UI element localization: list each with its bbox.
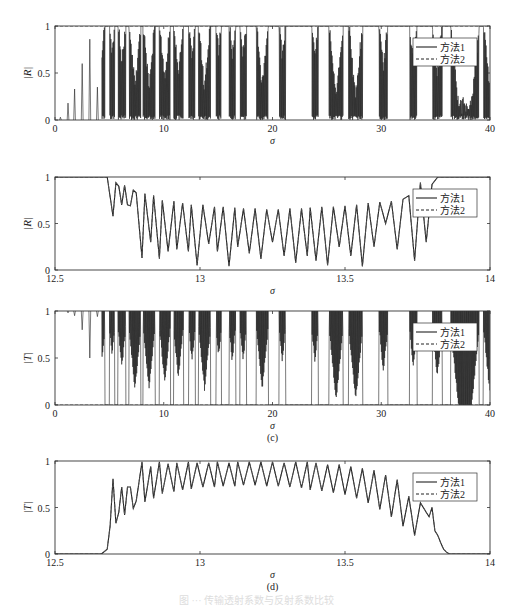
svg-text:|T|: |T| [21,501,33,513]
x-tick-label: 40 [485,408,495,419]
chart-b-svg: 12.51313.51400.51|R|σ(b)方法1方法2 [0,148,513,298]
x-axis-label: σ [270,569,276,580]
chart-c-svg: 01020304000.51|T|σ(c)方法1方法2 [0,298,513,446]
y-tick-label: 1 [45,172,50,183]
chart-panel-c: 01020304000.51|T|σ(c)方法1方法2 [0,298,513,446]
legend-label-method2: 方法2 [440,488,465,500]
y-axis-label: |T| [21,352,33,364]
svg-text:|R|: |R| [21,67,33,80]
legend: 方法1方法2 [413,473,477,501]
legend: 方法1方法2 [413,189,477,217]
panel-label: (c) [267,432,278,444]
legend-label-method2: 方法2 [440,338,465,350]
legend-label-method1: 方法1 [440,192,465,204]
x-tick-label: 13.5 [336,273,354,284]
panel-label: (d) [267,581,279,592]
x-axis-label: σ [270,420,276,431]
legend-label-method1: 方法1 [440,41,465,53]
chart-d-svg: 12.51313.51400.51|T|σ(d)方法1方法2 [0,446,513,592]
chart-panel-a: 01020304000.51|R|σ(a)方法1方法2 [0,0,513,148]
svg-text:|R|: |R| [21,217,33,230]
x-tick-label: 13 [195,273,205,284]
x-tick-label: 10 [159,408,169,419]
y-tick-label: 1 [45,306,50,317]
x-tick-label: 10 [159,123,169,134]
y-tick-label: 0 [45,549,50,560]
figure-caption: 图 ··· 传输透射系数与反射系数比较 [0,592,513,607]
x-tick-label: 14 [485,273,495,284]
x-axis-label: σ [270,135,276,146]
legend-label-method1: 方法1 [440,476,465,488]
x-tick-label: 0 [53,123,58,134]
x-tick-label: 13 [195,557,205,568]
legend-label-method2: 方法2 [440,204,465,216]
y-tick-label: 0.5 [38,68,51,79]
y-tick-label: 0 [45,115,50,126]
y-axis-label: |T| [21,501,33,513]
y-tick-label: 0.5 [38,219,51,230]
chart-a: 01020304000.51|R|σ(a)方法1方法2 [21,21,495,148]
y-axis-label: |R| [21,217,33,230]
x-tick-label: 20 [268,408,278,419]
y-tick-label: 0.5 [38,503,51,514]
chart-d: 12.51313.51400.51|T|σ(d)方法1方法2 [21,456,495,592]
svg-text:|T|: |T| [21,352,33,364]
x-tick-label: 13.5 [336,557,354,568]
x-tick-label: 30 [376,408,386,419]
y-tick-label: 1 [45,456,50,467]
legend-label-method1: 方法1 [440,326,465,338]
x-tick-label: 20 [268,123,278,134]
y-tick-label: 1 [45,21,50,32]
chart-c: 01020304000.51|T|σ(c)方法1方法2 [21,306,495,444]
legend: 方法1方法2 [413,38,477,66]
x-tick-label: 40 [485,123,495,134]
chart-a-svg: 01020304000.51|R|σ(a)方法1方法2 [0,0,513,148]
chart-panel-d: 12.51313.51400.51|T|σ(d)方法1方法2 [0,446,513,592]
legend: 方法1方法2 [413,323,477,351]
x-tick-label: 0 [53,408,58,419]
x-tick-label: 30 [376,123,386,134]
legend-label-method2: 方法2 [440,53,465,65]
chart-b: 12.51313.51400.51|R|σ(b)方法1方法2 [21,172,495,298]
y-axis-label: |R| [21,67,33,80]
y-tick-label: 0.5 [38,353,51,364]
y-tick-label: 0 [45,400,50,411]
x-axis-label: σ [270,285,276,296]
x-tick-label: 14 [485,557,495,568]
y-tick-label: 0 [45,265,50,276]
chart-panel-b: 12.51313.51400.51|R|σ(b)方法1方法2 [0,148,513,298]
